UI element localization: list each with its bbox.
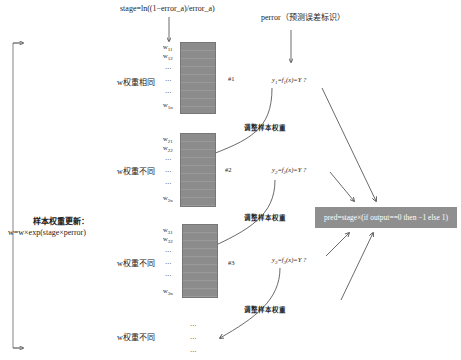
group-label: w权重不同	[117, 260, 155, 268]
weight-ellipsis: …	[165, 64, 172, 71]
adjust-weights-label: 调整样本权重	[244, 215, 286, 222]
equation: y2=f2(x)=Y ?	[272, 167, 306, 175]
weight-label: w32	[163, 236, 173, 244]
stage-formula: stage=ln((1−error_a)/error_a)	[120, 5, 215, 13]
update-title: 样本权重更新：	[33, 218, 89, 226]
connector-lines	[0, 0, 461, 360]
weight-ellipsis: …	[165, 271, 172, 278]
prediction-box: pred=stage×(if output==0 then −1 else 1)	[315, 207, 457, 228]
weight-ellipsis: …	[165, 167, 172, 174]
weight-label: w1n	[163, 102, 173, 110]
weight-box	[182, 224, 218, 298]
equation: y1=f1(x)=Y ?	[272, 77, 306, 85]
index-label: #2	[225, 167, 232, 174]
perror-label: perror（预测误差标识）	[261, 14, 345, 22]
weight-ellipsis: …	[165, 259, 172, 266]
ellipsis: …	[190, 334, 197, 341]
weight-label: w21	[163, 136, 173, 144]
adjust-weights-label: 调整样本权重	[244, 125, 286, 132]
index-label: #3	[228, 260, 235, 267]
group-label: w权重不同	[117, 168, 155, 176]
update-formula: w=w×exp(stage×perror)	[8, 229, 86, 237]
weight-label: w3n	[163, 288, 173, 296]
weight-label: w12	[163, 53, 173, 61]
weight-label: w22	[163, 145, 173, 153]
group-label: w权重相同	[117, 79, 155, 87]
weight-ellipsis: …	[165, 247, 172, 254]
ellipsis: …	[190, 347, 197, 354]
weight-box	[180, 133, 216, 207]
weight-ellipsis: …	[165, 88, 172, 95]
group-label: w权重不同	[117, 334, 155, 342]
index-label: #1	[228, 76, 235, 83]
weight-box	[180, 42, 216, 114]
weight-label: w2n	[163, 195, 173, 203]
weight-ellipsis: …	[165, 179, 172, 186]
equation: y3=f3(x)=Y ?	[272, 257, 306, 265]
adjust-weights-label: 调整样本权重	[244, 307, 286, 314]
weight-ellipsis: …	[165, 76, 172, 83]
weight-label: w31	[163, 227, 173, 235]
weight-label: w11	[163, 44, 173, 52]
weight-ellipsis: …	[165, 155, 172, 162]
ellipsis: …	[190, 321, 197, 328]
